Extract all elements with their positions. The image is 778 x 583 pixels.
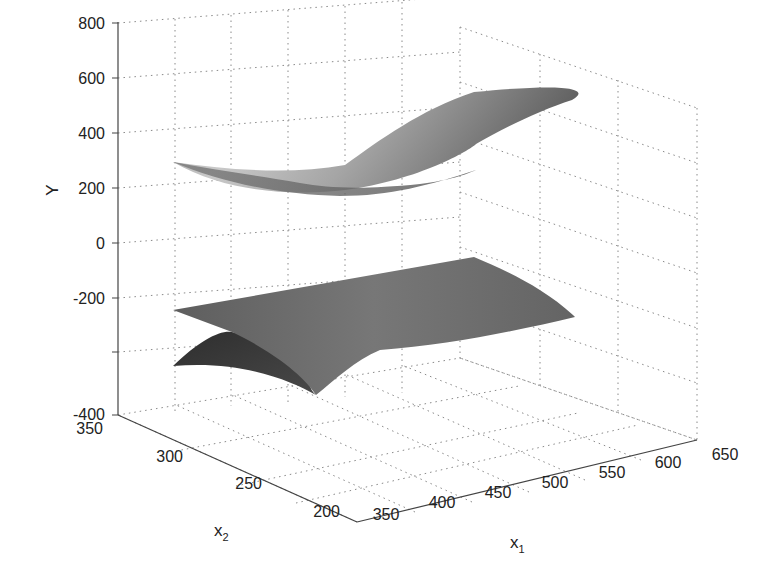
x1-tick-labels: 350 400 450 500 550 600 650 [373, 446, 739, 523]
x2-tick: 300 [156, 448, 183, 465]
x1-tick: 350 [373, 506, 400, 523]
y-tick: 800 [78, 15, 105, 32]
x1-tick: 500 [542, 474, 569, 491]
x1-tick: 450 [485, 484, 512, 501]
grid-lines [118, 0, 697, 522]
x1-axis-label: x1 [510, 533, 525, 555]
x2-tick: 350 [76, 420, 103, 437]
y-tick-labels: 800 600 400 200 0 -200 -400 [73, 15, 105, 423]
x1-tick: 650 [712, 446, 739, 463]
x1-tick: 550 [599, 464, 626, 481]
y-tick: 200 [78, 180, 105, 197]
x2-tick-labels: 350 300 250 200 [76, 420, 340, 520]
y-tick: 400 [78, 125, 105, 142]
x2-tick: 200 [313, 503, 340, 520]
surface-plot: 800 600 400 200 0 -200 -400 Y 350 300 25… [0, 0, 778, 583]
x2-tick: 250 [235, 475, 262, 492]
lower-surface [173, 257, 575, 395]
y-tick: 0 [96, 235, 105, 252]
x2-axis-label: x2 [214, 521, 229, 543]
y-tick: 600 [78, 70, 105, 87]
y-tick: -200 [73, 290, 105, 307]
upper-surface [173, 87, 579, 196]
x1-tick: 600 [655, 454, 682, 471]
x1-tick: 400 [429, 494, 456, 511]
y-axis-label: Y [43, 184, 62, 195]
